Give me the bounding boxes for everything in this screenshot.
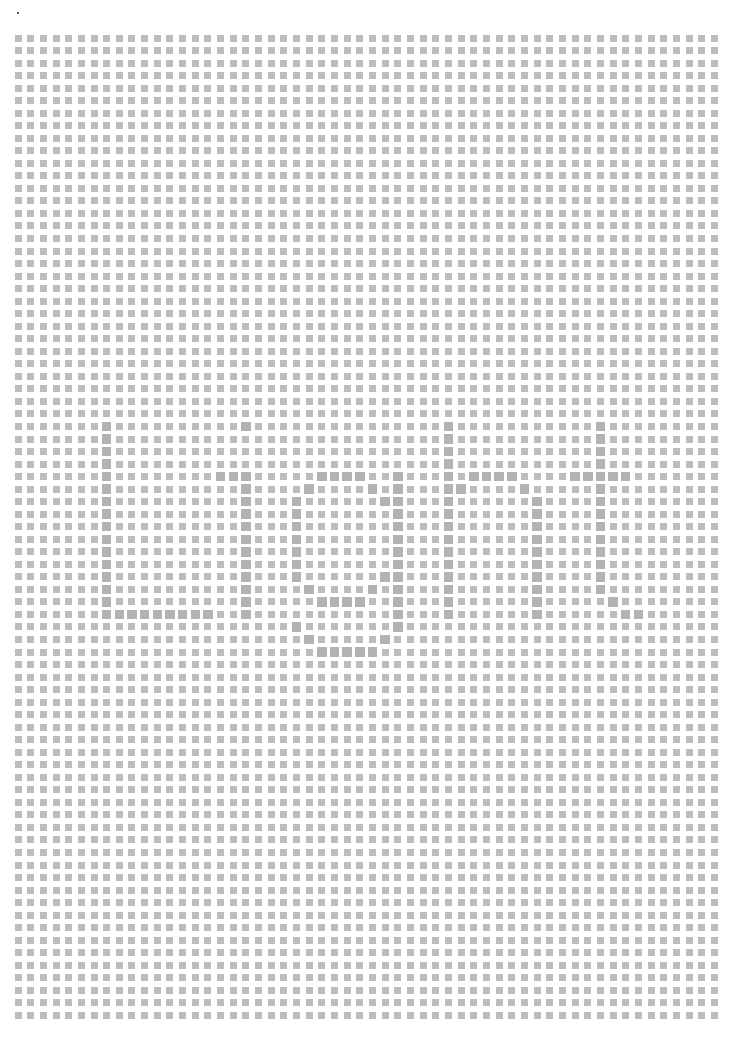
grid-square [420, 799, 427, 806]
grid-square [420, 523, 427, 530]
grid-square [306, 498, 313, 505]
grid-square [141, 937, 148, 944]
grid-square [673, 536, 680, 543]
grid-square [255, 887, 262, 894]
grid-square [559, 674, 566, 681]
grid-square [597, 60, 604, 67]
grid-square [483, 60, 490, 67]
grid-square [660, 598, 667, 605]
grid-square [483, 172, 490, 179]
grid-square [27, 310, 34, 317]
grid-square [40, 197, 47, 204]
grid-square [698, 298, 705, 305]
grid-square [546, 348, 553, 355]
grid-square [293, 473, 300, 480]
grid-square [534, 235, 541, 242]
grid-square [445, 736, 452, 743]
grid-square [192, 674, 199, 681]
grid-square [508, 511, 515, 518]
grid-square [432, 937, 439, 944]
grid-square [268, 423, 275, 430]
grid-square [432, 736, 439, 743]
grid-square [65, 874, 72, 881]
grid-square [572, 210, 579, 217]
grid-square [559, 461, 566, 468]
grid-square [559, 172, 566, 179]
grid-square [496, 674, 503, 681]
grid-square [154, 172, 161, 179]
grid-square [369, 335, 376, 342]
grid-square [622, 536, 629, 543]
grid-square [407, 35, 414, 42]
traced-square [444, 572, 454, 582]
grid-square [407, 60, 414, 67]
traced-square [596, 497, 606, 507]
grid-square [483, 774, 490, 781]
grid-square [27, 674, 34, 681]
grid-square [572, 899, 579, 906]
grid-square [154, 461, 161, 468]
grid-square [382, 197, 389, 204]
grid-square [521, 899, 528, 906]
grid-square [53, 410, 60, 417]
grid-square [673, 799, 680, 806]
grid-square [204, 711, 211, 718]
grid-square [91, 573, 98, 580]
grid-square [91, 110, 98, 117]
grid-square [496, 97, 503, 104]
grid-square [686, 623, 693, 630]
grid-square [432, 661, 439, 668]
grid-square [154, 573, 161, 580]
grid-square [673, 1012, 680, 1019]
grid-square [15, 611, 22, 618]
grid-square [242, 899, 249, 906]
grid-square [458, 862, 465, 869]
grid-square [15, 410, 22, 417]
grid-square [622, 85, 629, 92]
grid-square [116, 147, 123, 154]
grid-square [78, 949, 85, 956]
grid-square [293, 97, 300, 104]
grid-square [91, 498, 98, 505]
grid-square [331, 97, 338, 104]
grid-square [141, 360, 148, 367]
grid-square [27, 260, 34, 267]
grid-square [141, 348, 148, 355]
grid-square [673, 786, 680, 793]
grid-square [521, 623, 528, 630]
grid-square [445, 273, 452, 280]
grid-square [369, 47, 376, 54]
grid-square [711, 172, 718, 179]
grid-square [65, 686, 72, 693]
grid-square [382, 536, 389, 543]
grid-square [458, 586, 465, 593]
grid-square [103, 348, 110, 355]
grid-square [648, 110, 655, 117]
grid-square [268, 786, 275, 793]
grid-square [698, 711, 705, 718]
grid-square [53, 160, 60, 167]
grid-square [166, 561, 173, 568]
grid-square [204, 924, 211, 931]
grid-square [458, 548, 465, 555]
grid-square [15, 436, 22, 443]
grid-square [103, 774, 110, 781]
grid-square [331, 962, 338, 969]
grid-square [331, 85, 338, 92]
grid-square [179, 561, 186, 568]
grid-square [432, 611, 439, 618]
grid-square [382, 937, 389, 944]
grid-square [534, 887, 541, 894]
grid-square [673, 573, 680, 580]
grid-square [154, 323, 161, 330]
grid-square [91, 160, 98, 167]
grid-square [432, 824, 439, 831]
grid-square [128, 949, 135, 956]
grid-square [698, 473, 705, 480]
grid-square [660, 912, 667, 919]
grid-square [534, 836, 541, 843]
grid-square [635, 862, 642, 869]
grid-square [407, 147, 414, 154]
grid-square [660, 160, 667, 167]
grid-square [546, 385, 553, 392]
